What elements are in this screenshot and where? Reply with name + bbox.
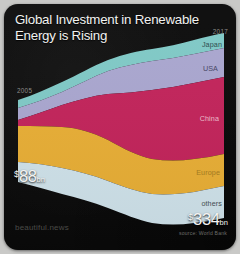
end-total-value: 334 [193,210,219,228]
brand-watermark: beautiful.news [15,223,69,232]
start-year-label: 2005 [17,87,32,94]
series-label-usa: USA [203,64,218,73]
start-total-label: $88bn [14,167,45,186]
source-credit: source: World Bank [179,230,227,236]
infographic-card: Global Investment in Renewable Energy is… [4,4,236,250]
series-label-others: others [201,199,222,208]
end-total-label: $334bn [188,210,228,229]
series-label-europe: Europe [196,168,220,177]
end-total-unit: bn [219,218,228,227]
series-label-china: China [200,114,219,123]
start-total-unit: bn [37,175,46,184]
chart-title: Global Investment in Renewable Energy is… [15,12,215,43]
start-total-value: 88 [19,167,37,185]
end-year-label: 2017 [213,28,228,35]
